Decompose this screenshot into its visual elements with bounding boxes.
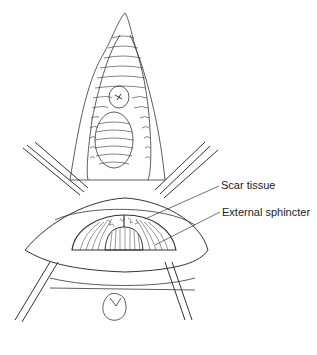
rectal-bulge [95, 112, 133, 168]
scar-tissue [108, 218, 138, 227]
vaginal-wall-ribs [90, 36, 150, 158]
surgical-illustration [0, 0, 317, 355]
scar-leader [145, 186, 219, 219]
label-scar-tissue: Scar tissue [221, 179, 275, 191]
inner-fold [87, 35, 151, 180]
anus [103, 293, 126, 320]
label-external-sphincter: External sphincter [222, 206, 310, 218]
retractors [15, 142, 218, 322]
